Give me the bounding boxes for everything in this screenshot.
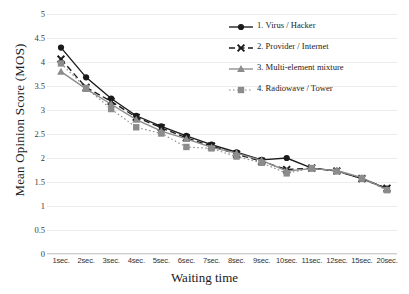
x-tick-label: 4sec.: [128, 256, 145, 265]
legend-marker-circle-icon: [228, 19, 254, 31]
data-point-square-marker: [183, 144, 189, 150]
chart-container: Mean Opinion Score (MOS) 54.543.532.521.…: [0, 0, 409, 294]
x-tick-label: 9sec.: [253, 256, 270, 265]
data-point-triangle-marker: [57, 68, 65, 75]
x-tick-label: 1sec.: [52, 256, 69, 265]
data-point-square-marker: [283, 170, 289, 176]
data-point-square-marker: [309, 165, 315, 171]
x-tick-label: 10sec.: [276, 256, 297, 265]
data-point-square-marker: [108, 106, 114, 112]
x-tick-label: 11sec.: [301, 256, 322, 265]
x-tick-label: 7sec.: [203, 256, 220, 265]
x-tick-label: 8sec.: [228, 256, 245, 265]
data-point-square-marker: [158, 130, 164, 136]
y-tick-label: 1.5: [19, 177, 45, 187]
chart-legend: 1. Virus / Hacker 2. Provider / Internet…: [228, 14, 403, 98]
x-tick-label: 6sec.: [178, 256, 195, 265]
legend-item-4[interactable]: 4. Radiowave / Tower: [228, 77, 403, 98]
x-tick-label: 5sec.: [153, 256, 170, 265]
data-point-square-marker: [238, 86, 244, 92]
data-point-square-marker: [208, 145, 214, 151]
x-tick-label: 20sec.: [376, 256, 397, 265]
gridline: [47, 254, 397, 255]
x-axis-title: Waiting time: [0, 270, 409, 286]
y-tick-label: 2.5: [19, 129, 45, 139]
data-point-square-marker: [384, 187, 390, 193]
y-tick-label: 1: [19, 201, 45, 211]
y-tick-label: 4.5: [19, 33, 45, 43]
legend-label: 2. Provider / Internet: [257, 41, 329, 51]
y-tick-label: 0: [19, 249, 45, 259]
data-point-circle-marker: [58, 45, 64, 51]
data-point-square-marker: [133, 124, 139, 130]
y-tick-label: 4: [19, 57, 45, 67]
x-tick-label: 2sec.: [77, 256, 94, 265]
y-tick-label: 0.5: [19, 225, 45, 235]
data-point-square-marker: [83, 85, 89, 91]
y-axis-tick-labels: 54.543.532.521.510.50: [15, 14, 45, 254]
data-point-square-marker: [58, 60, 64, 66]
legend-label: 3. Multi-element mixture: [257, 62, 344, 72]
legend-marker-x-icon: [228, 40, 254, 52]
data-point-square-marker: [258, 160, 264, 166]
data-point-circle-marker: [284, 155, 290, 161]
data-point-square-marker: [334, 168, 340, 174]
data-point-square-marker: [233, 153, 239, 159]
data-point-square-marker: [359, 175, 365, 181]
legend-marker-triangle-icon: [228, 61, 254, 73]
y-tick-label: 3.5: [19, 81, 45, 91]
legend-label: 1. Virus / Hacker: [257, 20, 316, 30]
x-tick-label: 15sec.: [351, 256, 372, 265]
legend-label: 4. Radiowave / Tower: [257, 83, 333, 93]
x-tick-label: 3sec.: [103, 256, 120, 265]
y-tick-label: 3: [19, 105, 45, 115]
legend-marker-square-icon: [228, 82, 254, 94]
legend-item-3[interactable]: 3. Multi-element mixture: [228, 56, 403, 77]
legend-item-1[interactable]: 1. Virus / Hacker: [228, 14, 403, 35]
y-tick-label: 5: [19, 9, 45, 19]
data-point-circle-marker: [238, 23, 244, 29]
legend-item-2[interactable]: 2. Provider / Internet: [228, 35, 403, 56]
data-point-circle-marker: [83, 74, 89, 80]
x-tick-label: 12sec.: [326, 256, 347, 265]
y-tick-label: 2: [19, 153, 45, 163]
